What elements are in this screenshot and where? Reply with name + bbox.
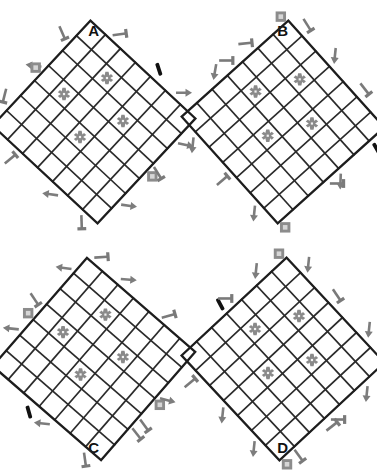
square-marker-icon: [30, 62, 40, 72]
panel-b: B: [189, 0, 377, 236]
cross-icon: [57, 326, 69, 338]
panel-a-gridlines: [0, 21, 195, 224]
arrow-marker-icon: [249, 441, 259, 458]
cross-icon: [101, 72, 113, 84]
arrow-marker-icon: [34, 419, 51, 429]
panel-c-svg: [0, 237, 188, 473]
square-marker-icon: [274, 248, 284, 258]
square-marker-icon: [276, 11, 286, 21]
cross-icon: [293, 310, 305, 322]
hammer-marker-icon: [161, 309, 178, 322]
square-marker-icon: [155, 400, 165, 410]
arrow-marker-icon: [362, 386, 372, 403]
hammer-marker-icon: [214, 172, 231, 189]
hammer-marker-icon: [27, 291, 43, 309]
cross-icon: [306, 117, 318, 129]
panel-b-svg: [189, 0, 377, 236]
panel-d: D: [189, 237, 377, 473]
square-marker-icon: [280, 222, 290, 232]
panel-d-gridlines: [182, 258, 377, 461]
arrow-marker-icon: [249, 205, 259, 222]
cross-icon: [74, 131, 86, 143]
bar-marker-icon: [155, 63, 163, 77]
arrow-marker-icon: [218, 407, 228, 424]
figure-canvas: A B C D: [0, 0, 377, 473]
cross-icon: [58, 88, 70, 100]
hammer-marker-icon: [77, 215, 86, 231]
cross-icon: [249, 85, 261, 97]
panel-d-svg: [189, 237, 377, 473]
square-marker-icon: [147, 171, 157, 181]
panel-b-border: [182, 21, 377, 224]
hammer-marker-icon: [329, 287, 345, 305]
hammer-marker-icon: [238, 38, 254, 48]
hammer-marker-icon: [357, 81, 373, 98]
panel-a: A: [0, 0, 188, 236]
panel-b-gridlines: [182, 21, 377, 224]
arrow-marker-icon: [55, 263, 72, 273]
hammer-marker-icon: [94, 252, 110, 262]
arrow-marker-icon: [210, 63, 221, 80]
hammer-marker-icon: [219, 56, 234, 65]
panel-a-svg: [0, 0, 188, 236]
panel-b-lattice: [189, 0, 377, 236]
arrow-marker-icon: [364, 321, 374, 338]
hammer-marker-icon: [2, 150, 19, 167]
bar-marker-icon: [25, 405, 32, 419]
hammer-marker-icon: [112, 29, 128, 40]
hammer-marker-icon: [291, 447, 307, 465]
panel-a-lattice: [0, 0, 188, 236]
arrow-marker-icon: [2, 324, 19, 334]
panel-c-lattice: [0, 237, 188, 473]
hammer-marker-icon: [129, 426, 145, 443]
panel-c: C: [0, 237, 188, 473]
arrow-marker-icon: [42, 189, 59, 199]
cross-icon: [294, 73, 306, 85]
square-marker-icon: [23, 308, 33, 318]
square-marker-icon: [282, 459, 292, 469]
cross-icon: [249, 323, 261, 335]
arrow-marker-icon: [188, 137, 198, 154]
cross-icon: [99, 308, 111, 320]
hammer-marker-icon: [137, 417, 153, 435]
bar-marker-icon: [372, 142, 377, 155]
hammer-marker-icon: [55, 25, 69, 43]
cross-icon: [262, 130, 274, 142]
arrow-marker-icon: [330, 48, 340, 65]
cross-icon: [117, 351, 129, 363]
arrow-marker-icon: [303, 256, 313, 273]
panel-d-lattice: [189, 237, 377, 473]
hammer-marker-icon: [80, 452, 91, 468]
cross-icon: [74, 368, 86, 380]
panel-c-gridlines: [0, 258, 195, 460]
cross-icon: [262, 367, 274, 379]
hammer-marker-icon: [300, 17, 316, 35]
cross-icon: [306, 354, 318, 366]
arrow-marker-icon: [121, 201, 138, 211]
arrow-marker-icon: [251, 263, 261, 280]
arrow-marker-icon: [121, 275, 138, 284]
hammer-marker-icon: [0, 88, 10, 105]
cross-icon: [117, 115, 129, 127]
